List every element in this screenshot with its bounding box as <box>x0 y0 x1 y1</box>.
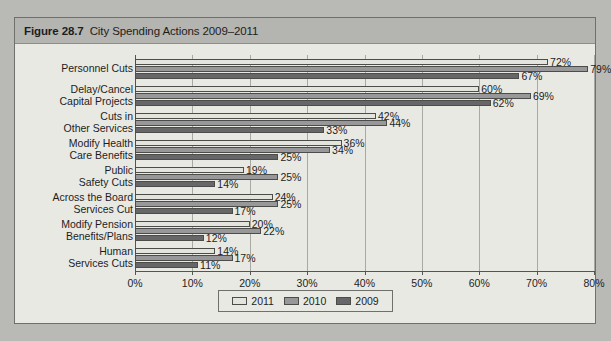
bar-2011-0 <box>135 59 548 65</box>
chart-area: 0%10%20%30%40%50%60%70%80% Personnel Cut… <box>15 44 595 325</box>
x-axis-tick-label: 40% <box>354 277 375 289</box>
bar-2011-7 <box>135 248 215 254</box>
bar-2011-4 <box>135 167 244 173</box>
figure-title-bar: Figure 28.7 City Spending Actions 2009–2… <box>15 18 595 44</box>
category-label-line: Modify Pension <box>17 219 133 231</box>
category-label-line: Modify Health <box>17 138 133 150</box>
x-axis-tick-label: 10% <box>182 277 203 289</box>
category-label-line: Personnel Cuts <box>17 63 133 75</box>
category-label: Across the BoardServices Cut <box>17 192 133 215</box>
bar-2009-2 <box>135 127 324 133</box>
legend-swatch-icon <box>232 297 247 305</box>
bar-2010-0 <box>135 66 588 72</box>
bar-value-label: 11% <box>200 260 220 270</box>
bars-container: 72%79%67%60%69%62%42%44%33%36%34%25%19%2… <box>135 55 594 271</box>
category-label: HumanServices Cuts <box>17 246 133 269</box>
x-axis-tick-label: 30% <box>297 277 318 289</box>
bar-2011-5 <box>135 194 273 200</box>
legend-item-2011[interactable]: 2011 <box>232 295 274 307</box>
x-axis-tick <box>135 271 136 275</box>
bar-2011-3 <box>135 140 342 146</box>
bar-2009-7 <box>135 262 198 268</box>
bar-2010-5 <box>135 201 278 207</box>
legend-label: 2010 <box>303 295 326 307</box>
category-label-line: Services Cut <box>17 204 133 216</box>
legend-label: 2011 <box>251 295 274 307</box>
bar-2009-6 <box>135 235 204 241</box>
category-label-line: Across the Board <box>17 192 133 204</box>
figure-title: City Spending Actions 2009–2011 <box>90 25 259 37</box>
category-label-line: Public <box>17 165 133 177</box>
x-axis-tick-label: 20% <box>239 277 260 289</box>
bar-2011-2 <box>135 113 376 119</box>
bar-2009-0 <box>135 73 519 79</box>
category-label-line: Safety Cuts <box>17 177 133 189</box>
figure-panel: Figure 28.7 City Spending Actions 2009–2… <box>14 17 596 324</box>
bar-2009-5 <box>135 208 233 214</box>
category-label-line: Delay/Cancel <box>17 84 133 96</box>
bar-value-label: 62% <box>493 98 514 108</box>
bar-2010-2 <box>135 120 387 126</box>
category-label: Modify PensionBenefits/Plans <box>17 219 133 242</box>
bar-value-label: 17% <box>235 253 256 263</box>
bar-2011-6 <box>135 221 250 227</box>
x-axis-tick-label: 0% <box>127 277 142 289</box>
bar-value-label: 17% <box>235 206 256 216</box>
bar-2009-3 <box>135 154 278 160</box>
category-label-line: Capital Projects <box>17 96 133 108</box>
legend-item-2010[interactable]: 2010 <box>284 295 326 307</box>
x-axis-tick <box>250 271 251 275</box>
bar-value-label: 25% <box>280 152 301 162</box>
x-axis-tick <box>192 271 193 275</box>
bar-2011-1 <box>135 86 479 92</box>
bar-value-label: 79% <box>590 64 611 74</box>
bar-value-label: 22% <box>263 226 284 236</box>
bar-2010-6 <box>135 228 261 234</box>
category-label: PublicSafety Cuts <box>17 165 133 188</box>
category-label: Personnel Cuts <box>17 63 133 75</box>
legend-swatch-icon <box>336 297 351 305</box>
bar-value-label: 44% <box>389 118 410 128</box>
bar-2009-1 <box>135 100 491 106</box>
x-axis-tick <box>479 271 480 275</box>
bar-value-label: 14% <box>217 179 238 189</box>
x-axis-tick <box>365 271 366 275</box>
category-label-line: Care Benefits <box>17 150 133 162</box>
bar-value-label: 69% <box>533 91 554 101</box>
category-label: Modify HealthCare Benefits <box>17 138 133 161</box>
category-label-line: Other Services <box>17 123 133 135</box>
x-axis-tick <box>594 271 595 275</box>
x-axis-tick-label: 60% <box>469 277 490 289</box>
x-axis-tick-label: 80% <box>583 277 604 289</box>
bar-value-label: 25% <box>280 199 301 209</box>
bar-value-label: 12% <box>206 233 227 243</box>
legend-label: 2009 <box>355 295 378 307</box>
bar-2009-4 <box>135 181 215 187</box>
category-label: Delay/CancelCapital Projects <box>17 84 133 107</box>
x-axis-tick-label: 50% <box>411 277 432 289</box>
legend-swatch-icon <box>284 297 299 305</box>
category-label-line: Cuts in <box>17 111 133 123</box>
bar-value-label: 25% <box>280 172 301 182</box>
x-axis-tick <box>307 271 308 275</box>
x-axis-tick <box>537 271 538 275</box>
category-label-line: Benefits/Plans <box>17 231 133 243</box>
figure-number: Figure 28.7 <box>24 25 84 37</box>
gridline <box>594 55 595 271</box>
category-axis-labels: Personnel CutsDelay/CancelCapital Projec… <box>15 55 133 271</box>
bar-2010-4 <box>135 174 278 180</box>
legend: 201120102009 <box>218 290 393 312</box>
legend-item-2009[interactable]: 2009 <box>336 295 378 307</box>
category-label: Cuts inOther Services <box>17 111 133 134</box>
bar-value-label: 33% <box>326 125 347 135</box>
x-axis-tick-label: 70% <box>526 277 547 289</box>
bar-value-label: 34% <box>332 145 353 155</box>
bar-2010-1 <box>135 93 531 99</box>
category-label-line: Services Cuts <box>17 258 133 270</box>
x-axis-tick <box>422 271 423 275</box>
category-label-line: Human <box>17 246 133 258</box>
bar-value-label: 67% <box>521 71 542 81</box>
